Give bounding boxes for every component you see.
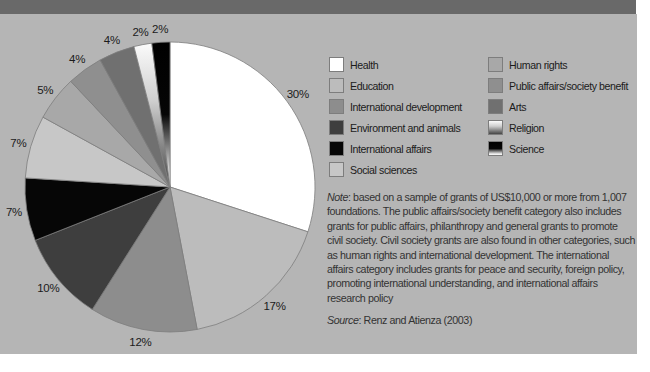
legend-swatch-arts [488, 99, 503, 114]
legend-item-international-affairs: International affairs [329, 138, 488, 159]
legend-label-arts: Arts [509, 101, 526, 113]
legend-item-health: Health [329, 54, 488, 75]
pie-value-label-social-sciences: 7% [10, 137, 26, 149]
legend-swatch-education [329, 78, 344, 93]
pie-value-label-public-affairs-society-benefit: 4% [69, 53, 85, 65]
legend-label-social-sciences: Social sciences [350, 164, 417, 176]
legend-item-international-development: International development [329, 96, 488, 117]
legend-item-public-affairs-society-benefit: Public affairs/society benefit [488, 75, 628, 96]
pie-value-label-arts: 4% [104, 34, 120, 46]
legend-swatch-international-development [329, 99, 344, 114]
legend-swatch-international-affairs [329, 141, 344, 156]
pie-value-label-religion: 2% [132, 26, 148, 38]
pie-value-label-international-affairs: 7% [6, 206, 22, 218]
legend-column-left: HealthEducationInternational development… [329, 54, 488, 180]
legend-label-international-development: International development [350, 101, 462, 113]
legend-swatch-social-sciences [329, 162, 344, 177]
note-body: : based on a sample of grants of US$10,0… [327, 191, 635, 304]
source-label: Source [327, 314, 358, 326]
legend-item-religion: Religion [488, 117, 628, 138]
legend-label-science: Science [509, 143, 544, 155]
legend-swatch-public-affairs-society-benefit [488, 78, 503, 93]
legend-label-environment-and-animals: Environment and animals [350, 122, 460, 134]
legend-swatch-environment-and-animals [329, 120, 344, 135]
legend-swatch-health [329, 57, 344, 72]
legend-label-religion: Religion [509, 122, 544, 134]
note-label: Note [327, 191, 348, 203]
legend-swatch-science [488, 141, 503, 156]
legend-swatch-religion [488, 120, 503, 135]
pie-value-label-education: 17% [263, 300, 285, 312]
pie-value-label-health: 30% [287, 88, 309, 100]
legend-swatch-human-rights [488, 57, 503, 72]
figure: 30%17%12%10%7%7%5%4%4%2%2% HealthEducati… [0, 0, 650, 372]
notes-block: Note: based on a sample of grants of US$… [327, 190, 635, 328]
pie-value-label-science: 2% [152, 23, 168, 35]
legend-label-education: Education [350, 80, 394, 92]
legend-column-right: Human rightsPublic affairs/society benef… [488, 54, 628, 180]
legend-label-health: Health [350, 59, 378, 71]
legend-label-international-affairs: International affairs [350, 143, 432, 155]
legend-label-human-rights: Human rights [509, 59, 567, 71]
legend: HealthEducationInternational development… [329, 54, 628, 180]
note-text: Note: based on a sample of grants of US$… [327, 190, 635, 305]
legend-item-social-sciences: Social sciences [329, 159, 488, 180]
source-text: Source: Renz and Atienza (2003) [327, 313, 635, 327]
legend-item-science: Science [488, 138, 628, 159]
legend-item-human-rights: Human rights [488, 54, 628, 75]
legend-item-environment-and-animals: Environment and animals [329, 117, 488, 138]
pie-value-label-environment-and-animals: 10% [37, 282, 59, 294]
legend-label-public-affairs-society-benefit: Public affairs/society benefit [509, 80, 628, 92]
pie-value-label-human-rights: 5% [37, 84, 53, 96]
legend-item-arts: Arts [488, 96, 628, 117]
legend-item-education: Education [329, 75, 488, 96]
source-body: : Renz and Atienza (2003) [358, 314, 472, 326]
pie-value-label-international-development: 12% [129, 336, 151, 348]
